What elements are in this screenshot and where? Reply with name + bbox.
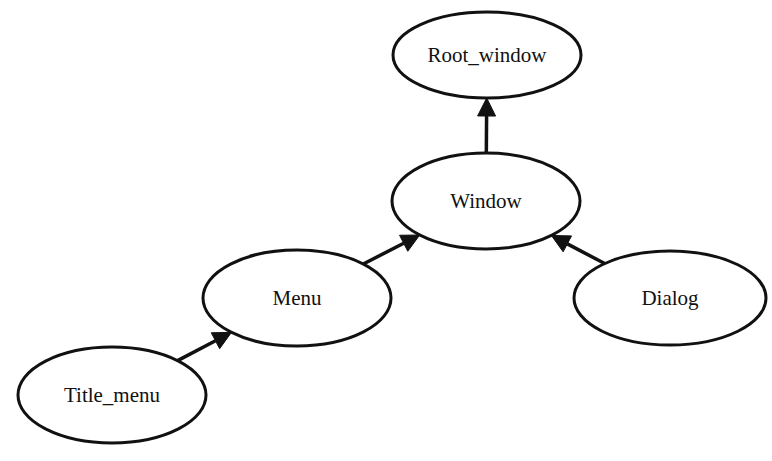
arrowhead-icon [478,98,496,116]
edge-title_menu-to-menu [178,341,216,361]
node-root-window[interactable]: Root_window [393,12,581,98]
edge-menu-to-window [363,243,403,264]
node-label: Title_menu [64,383,161,407]
node-label: Menu [273,286,322,310]
nodes-layer: Root_window Window Menu Dialog Title_men… [18,12,766,443]
graph-canvas: Root_window Window Menu Dialog Title_men… [0,0,772,461]
node-title-menu[interactable]: Title_menu [18,347,206,443]
node-window[interactable]: Window [392,153,580,249]
node-label: Window [450,189,522,213]
node-label: Dialog [641,286,699,310]
edge-dialog-to-window [567,244,604,264]
node-label: Root_window [427,43,547,67]
node-dialog[interactable]: Dialog [574,251,766,345]
node-menu[interactable]: Menu [203,250,391,346]
